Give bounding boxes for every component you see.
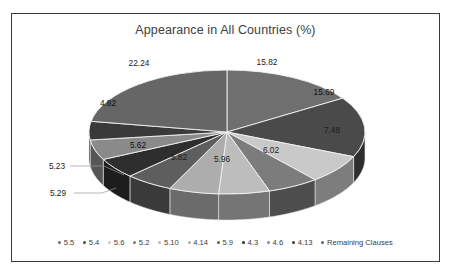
pie-slice-wall <box>219 191 270 220</box>
screenshot-root: Appearance in All Countries (%) 15.82 15… <box>0 0 464 277</box>
legend-item[interactable]: 5.10 <box>158 238 178 247</box>
legend-item[interactable]: Remaining Clauses <box>321 238 392 247</box>
slice-label-4: 5.96 <box>214 154 230 164</box>
legend-swatch-icon <box>217 241 220 244</box>
legend-item[interactable]: 4.3 <box>242 238 258 247</box>
legend-item-label: 5.6 <box>114 238 125 247</box>
chart-title: Appearance in All Countries (%) <box>12 23 439 37</box>
slice-label-3: 6.02 <box>263 145 279 155</box>
slice-label-6: 5.62 <box>130 140 146 150</box>
legend-item-label: 5.4 <box>89 238 100 247</box>
legend-item[interactable]: 5.2 <box>133 238 149 247</box>
legend-swatch-icon <box>267 241 270 244</box>
legend-item-label: 5.2 <box>139 238 150 247</box>
legend-item-label: 5.9 <box>222 238 233 247</box>
legend-item-label: 4.6 <box>273 238 284 247</box>
legend-item[interactable]: 5.6 <box>108 238 124 247</box>
legend-swatch-icon <box>321 241 324 244</box>
slice-label-2: 7.48 <box>324 125 340 135</box>
slice-label-9: 4.82 <box>100 98 116 108</box>
pie-chart: 15.82 15.69 7.48 6.02 5.96 5.82 5.62 5.2… <box>12 44 441 219</box>
chart-legend: 5.55.45.65.25.104.145.94.34.64.13Remaini… <box>12 238 439 247</box>
legend-item-label: 5.10 <box>164 238 179 247</box>
pie-svg <box>12 44 441 219</box>
legend-swatch-icon <box>242 241 245 244</box>
slice-label-8: 5.23 <box>49 161 65 171</box>
slice-label-10: 22.24 <box>129 58 150 68</box>
legend-item[interactable]: 5.5 <box>58 238 74 247</box>
legend-item-label: 4.13 <box>298 238 313 247</box>
chart-frame: Appearance in All Countries (%) 15.82 15… <box>11 13 440 262</box>
slice-label-1: 15.69 <box>314 87 335 97</box>
legend-item[interactable]: 5.4 <box>83 238 99 247</box>
legend-item-label: 5.5 <box>64 238 75 247</box>
legend-item[interactable]: 4.6 <box>267 238 283 247</box>
slice-label-5: 5.82 <box>171 152 187 162</box>
legend-item[interactable]: 4.14 <box>188 238 208 247</box>
legend-swatch-icon <box>158 241 161 244</box>
legend-item[interactable]: 4.13 <box>292 238 312 247</box>
legend-swatch-icon <box>188 241 191 244</box>
slice-label-0: 15.82 <box>257 57 278 67</box>
legend-item-label: Remaining Clauses <box>327 238 393 247</box>
slice-label-7: 5.29 <box>50 188 66 198</box>
legend-swatch-icon <box>58 241 61 244</box>
legend-swatch-icon <box>133 241 136 244</box>
legend-swatch-icon <box>292 241 295 244</box>
legend-item[interactable]: 5.9 <box>217 238 233 247</box>
legend-item-label: 4.14 <box>193 238 208 247</box>
legend-swatch-icon <box>108 241 111 244</box>
legend-item-label: 4.3 <box>248 238 259 247</box>
legend-swatch-icon <box>83 241 86 244</box>
